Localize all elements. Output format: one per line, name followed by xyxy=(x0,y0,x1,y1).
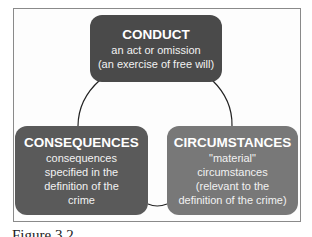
node-circumstances-line: "material" xyxy=(167,151,298,165)
node-consequences: CONSEQUENCES consequences specified in t… xyxy=(15,126,148,215)
node-circumstances-line: definition of the crime) xyxy=(167,193,298,207)
node-conduct-line: an act or omission xyxy=(90,43,222,57)
node-consequences-line: consequences xyxy=(15,151,148,165)
node-consequences-line: crime xyxy=(15,193,148,207)
figure-caption: Figure 3.2 xyxy=(12,227,74,237)
node-conduct-title: CONDUCT xyxy=(90,27,222,43)
node-consequences-line: definition of the xyxy=(15,179,148,193)
node-circumstances-title: CIRCUMSTANCES xyxy=(167,135,298,151)
node-circumstances: CIRCUMSTANCES "material" circumstances (… xyxy=(167,126,298,215)
node-consequences-title: CONSEQUENCES xyxy=(15,135,148,151)
node-conduct: CONDUCT an act or omission (an exercise … xyxy=(90,15,222,82)
node-consequences-line: specified in the xyxy=(15,165,148,179)
node-circumstances-line: circumstances xyxy=(167,165,298,179)
node-conduct-line: (an exercise of free will) xyxy=(90,57,222,71)
node-circumstances-line: (relevant to the xyxy=(167,179,298,193)
